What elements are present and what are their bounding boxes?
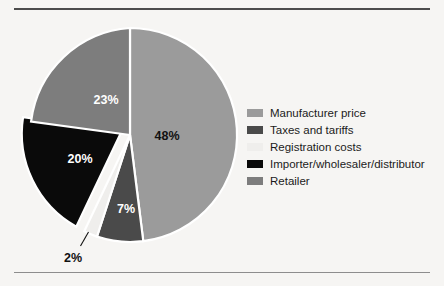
legend-item-manufacturer-price[interactable]: Manufacturer price — [247, 104, 437, 121]
bottom-divider-rule — [14, 272, 430, 273]
slice-value-retailer: 23% — [93, 93, 118, 107]
legend-swatch-registration-costs — [247, 143, 263, 151]
slice-value-importer-wholesaler-distributor: 20% — [67, 152, 92, 166]
pie-chart-figure: 48% 7% 2% 20% 23% Manufacturer price Tax… — [0, 0, 444, 286]
pie-chart-svg: 48% 7% 2% 20% 23% — [0, 0, 250, 286]
legend-label-importer-wholesaler-distributor: Importer/wholesaler/distributor — [270, 158, 425, 170]
legend-swatch-manufacturer-price — [247, 109, 263, 117]
legend-item-taxes-and-tariffs[interactable]: Taxes and tariffs — [247, 121, 437, 138]
slice-value-taxes-and-tariffs: 7% — [117, 202, 135, 216]
legend-swatch-taxes-and-tariffs — [247, 126, 263, 134]
legend-label-retailer: Retailer — [270, 175, 310, 187]
legend-swatch-retailer — [247, 177, 263, 185]
slice-value-registration-costs: 2% — [64, 251, 82, 265]
legend-label-registration-costs: Registration costs — [270, 141, 361, 153]
pie-slice-manufacturer-price[interactable] — [130, 28, 237, 241]
legend-item-registration-costs[interactable]: Registration costs — [247, 138, 437, 155]
pie-slice-retailer[interactable] — [31, 28, 130, 135]
legend-label-manufacturer-price: Manufacturer price — [270, 107, 366, 119]
legend-label-taxes-and-tariffs: Taxes and tariffs — [270, 124, 354, 136]
legend-swatch-importer-wholesaler-distributor — [247, 160, 263, 168]
chart-legend: Manufacturer price Taxes and tariffs Reg… — [247, 104, 437, 189]
slice-value-manufacturer-price: 48% — [154, 129, 179, 143]
pie-chart-plot-area: 48% 7% 2% 20% 23% — [0, 0, 250, 286]
legend-item-importer-wholesaler-distributor[interactable]: Importer/wholesaler/distributor — [247, 155, 437, 172]
leader-line-registration-costs — [81, 232, 89, 246]
legend-item-retailer[interactable]: Retailer — [247, 172, 437, 189]
